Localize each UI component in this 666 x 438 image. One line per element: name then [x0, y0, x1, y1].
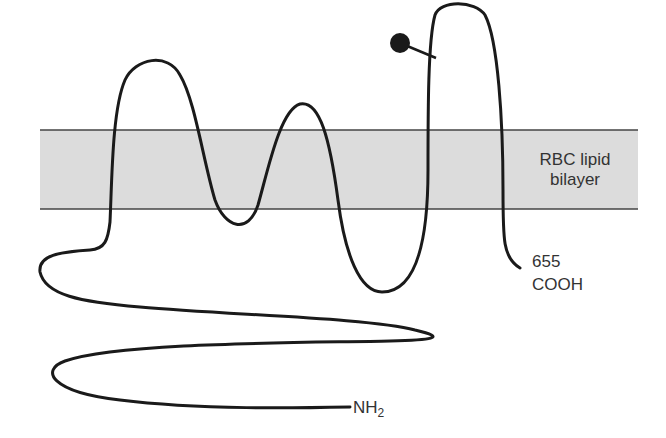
membrane-label-line1: RBC lipid	[520, 150, 630, 170]
n-terminus-label: NH2	[353, 398, 384, 423]
n-terminus-subscript: 2	[378, 406, 385, 420]
c-terminus-label: 655 COOH	[532, 252, 583, 295]
n-terminus-group: NH	[353, 398, 378, 417]
c-terminus-group: COOH	[532, 275, 583, 295]
glycosylation-dot-icon	[390, 33, 410, 53]
membrane-label-line2: bilayer	[520, 170, 630, 190]
c-terminus-residue: 655	[532, 252, 583, 272]
protein-topology-diagram	[0, 0, 666, 438]
membrane-label: RBC lipid bilayer	[520, 150, 630, 190]
